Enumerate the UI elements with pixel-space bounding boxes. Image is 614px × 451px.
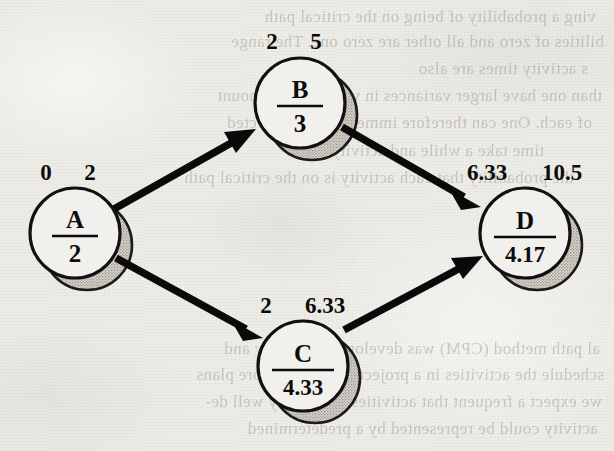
edge-c-d[interactable]: [344, 256, 483, 330]
edge-c-d-shaft: [344, 265, 466, 330]
edge-b-d-arrowhead: [449, 189, 481, 210]
node-d-early-time: 6.33: [467, 160, 507, 185]
edge-a-c-arrowhead: [231, 320, 263, 341]
node-a[interactable]: A 2: [30, 188, 120, 278]
node-d-duration: 4.17: [505, 242, 545, 267]
network-diagram-canvas: A 2 B 3 C 4.33 D: [0, 0, 614, 451]
edge-a-b-shaft: [114, 138, 240, 209]
node-a-duration: 2: [69, 240, 82, 267]
node-c[interactable]: C 4.33: [258, 321, 348, 411]
node-b-late-time: 5: [310, 29, 322, 54]
node-c-early-time: 2: [260, 293, 272, 318]
edge-b-d[interactable]: [342, 127, 481, 210]
node-d[interactable]: D 4.17: [480, 188, 570, 278]
scanned-page-figure: ving a probability of being on the criti…: [0, 0, 614, 451]
node-b-duration: 3: [294, 110, 307, 137]
node-a-early-time: 0: [40, 160, 52, 185]
node-c-duration: 4.33: [283, 375, 323, 400]
node-b-letter: B: [292, 76, 309, 103]
nodes-layer: A 2 B 3 C 4.33 D: [30, 58, 570, 411]
node-d-late-time: 10.5: [542, 160, 582, 185]
edge-a-c-shaft: [116, 258, 246, 329]
node-b[interactable]: B 3: [255, 58, 345, 148]
node-c-late-time: 6.33: [305, 293, 345, 318]
node-d-letter: D: [516, 207, 534, 234]
node-a-letter: A: [66, 206, 84, 233]
edge-a-b[interactable]: [114, 129, 256, 209]
edge-b-d-shaft: [342, 127, 464, 197]
node-a-late-time: 2: [84, 160, 96, 185]
edge-a-c[interactable]: [116, 258, 263, 341]
node-c-letter: C: [294, 340, 312, 367]
node-b-early-time: 2: [266, 29, 278, 54]
